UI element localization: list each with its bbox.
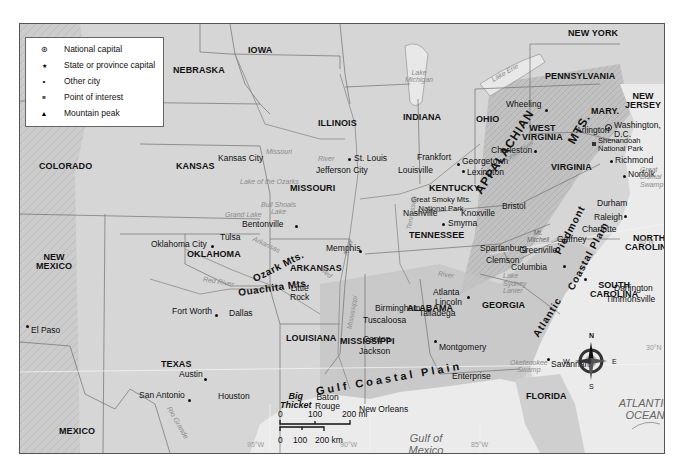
water-label-bull-shoals-lake: Bull Shoals Lake xyxy=(261,201,296,215)
city-label-durham: Durham xyxy=(597,199,627,208)
city-label-canton: Canton xyxy=(363,335,390,344)
legend-label: National capital xyxy=(64,44,122,54)
city-dot-austin xyxy=(204,378,207,381)
scale-mi-0: 0 xyxy=(278,410,283,419)
scale-mi-200: 200 mi xyxy=(342,410,368,419)
city-dot-frankfort xyxy=(457,163,460,166)
state-label-arkansas: ARKANSAS xyxy=(290,264,342,273)
compass-icon xyxy=(571,341,611,381)
state-label-texas: TEXAS xyxy=(161,360,192,369)
legend-label: Other city xyxy=(64,76,100,86)
state-label-maryland: MARY. xyxy=(591,107,619,116)
compass-e: E xyxy=(612,358,617,365)
state-label-new-mexico: NEW MEXICO xyxy=(36,253,72,271)
city-label-tuscaloosa: Tuscaloosa xyxy=(363,316,406,325)
city-dot-el-paso xyxy=(26,325,29,328)
city-label-oklahoma-city: Oklahoma City xyxy=(151,240,207,249)
city-label-enterprise: Enterprise xyxy=(452,372,491,381)
mountain-peak-icon: ▲ xyxy=(34,110,54,117)
state-label-pennsylvania: PENNSYLVANIA xyxy=(545,72,615,81)
state-label-new-jersey: NEW JERSEY xyxy=(625,92,661,110)
city-dot-atlanta xyxy=(467,296,470,299)
state-label-new-york: NEW YORK xyxy=(568,29,618,38)
state-capital-icon: ★ xyxy=(34,62,54,69)
city-label-fort-worth: Fort Worth xyxy=(172,307,212,316)
water-label-grand-lake: Grand Lake xyxy=(225,211,262,218)
poi-label-big-thicket: Big Thicket xyxy=(280,392,312,410)
city-label-el-paso: El Paso xyxy=(31,326,60,335)
water-label-atlantic-ocean: ATLANTIC OCEAN xyxy=(615,397,665,421)
scale-bar: 0 100 200 mi 0 100 200 km xyxy=(278,410,378,450)
city-label-louisville: Louisville xyxy=(398,166,433,175)
state-label-indiana: INDIANA xyxy=(403,113,441,122)
city-label-darlington: Darlington xyxy=(614,284,653,293)
city-dot-raleigh xyxy=(624,215,627,218)
state-label-georgia: GEORGIA xyxy=(482,301,525,310)
city-label-bentonville: Bentonville xyxy=(242,220,284,229)
city-label-san-antonio: San Antonio xyxy=(139,391,185,400)
city-dot-memphis xyxy=(359,250,362,253)
state-label-nebraska: NEBRASKA xyxy=(173,66,225,75)
state-label-colorado: COLORADO xyxy=(39,162,92,171)
scale-bar-lines xyxy=(278,420,378,436)
city-dot-bentonville xyxy=(295,225,298,228)
city-label-montgomery: Montgomery xyxy=(439,343,486,352)
point-of-interest-icon: ■ xyxy=(34,94,54,100)
city-dot-lexington xyxy=(462,170,465,173)
poi-label-shenandoah: Shenandoah National Park xyxy=(598,137,643,153)
city-label-jefferson-city: Jefferson City xyxy=(316,166,368,175)
water-label-missouri-river: Missouri xyxy=(266,148,292,155)
city-label-frankfort: Frankfort xyxy=(417,153,451,162)
legend-row-national-capital: ⊛ National capital xyxy=(26,42,122,56)
scale-km-0: 0 xyxy=(278,436,283,445)
city-label-kansas-city: Kansas City xyxy=(218,154,263,163)
city-dot-charleston xyxy=(534,150,537,153)
state-label-kansas: KANSAS xyxy=(176,162,215,171)
scale-km-200: 200 km xyxy=(315,436,343,445)
compass-w: W xyxy=(563,358,570,365)
legend-row-point-of-interest: ■ Point of interest xyxy=(26,90,123,104)
country-label-mexico: MEXICO xyxy=(59,427,95,436)
state-label-tennessee: TENNESSEE xyxy=(409,231,464,240)
graticule-label-30n: 30°N xyxy=(646,344,662,351)
city-label-birmingham: Birmingham xyxy=(375,304,420,313)
city-label-atlanta: Atlanta xyxy=(433,288,459,297)
legend-row-mountain-peak: ▲ Mountain peak xyxy=(26,106,120,120)
state-label-illinois: ILLINOIS xyxy=(318,119,357,128)
legend-row-other-city: • Other city xyxy=(26,74,100,88)
city-label-talladega: Talladega xyxy=(419,309,455,318)
city-label-raleigh: Raleigh xyxy=(594,213,623,222)
city-dot-richmond xyxy=(610,160,613,163)
state-label-virginia: VIRGINIA xyxy=(551,163,592,172)
city-dot-smyrna xyxy=(442,223,445,226)
state-label-oklahoma: OKLAHOMA xyxy=(187,250,241,259)
city-dot-norfolk xyxy=(623,175,626,178)
city-label-houston: Houston xyxy=(218,392,250,401)
legend-row-state-capital: ★ State or province capital xyxy=(26,58,155,72)
water-label-gulf-of-mexico: Gulf of Mexico xyxy=(396,432,456,454)
state-label-missouri: MISSOURI xyxy=(290,184,335,193)
scale-mi-100: 100 xyxy=(308,410,322,419)
poi-label-smoky-mts: Great Smoky Mts. National Park xyxy=(411,195,471,213)
water-label-lake-of-the-ozarks: Lake of the Ozarks xyxy=(240,178,299,185)
city-dot-birmingham xyxy=(427,309,430,312)
city-label-richmond: Richmond xyxy=(615,156,653,165)
water-label-missouri-river-2: River xyxy=(318,155,334,162)
city-dot-columbia xyxy=(563,265,566,268)
water-label-lake-sydney-lanier: Lake Sydney Lanier xyxy=(503,272,526,295)
state-label-ohio: OHIO xyxy=(476,115,499,124)
city-label-jackson: Jackson xyxy=(359,347,390,356)
city-dot-montgomery xyxy=(434,340,437,343)
city-dot-fort-worth xyxy=(215,314,218,317)
city-label-tulsa: Tulsa xyxy=(220,233,240,242)
water-label-okefenokee-swamp: Okefenokee Swamp xyxy=(510,359,548,373)
city-dot-wheeling xyxy=(545,109,548,112)
city-icon: • xyxy=(34,77,54,86)
compass-s: S xyxy=(589,383,594,390)
city-dot-darlington xyxy=(584,278,587,281)
city-label-austin: Austin xyxy=(179,370,203,379)
city-label-timmonsville: Timmonsville xyxy=(606,295,655,304)
city-dot-st-louis xyxy=(348,158,351,161)
state-label-louisiana: LOUISIANA xyxy=(286,334,336,343)
graticule-label-95w: 95°W xyxy=(247,441,264,448)
